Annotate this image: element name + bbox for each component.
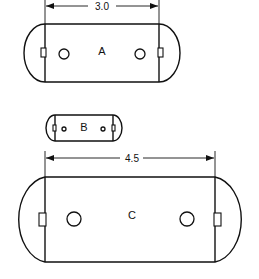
part-c-hole-right bbox=[180, 212, 194, 226]
part-b-tab-left bbox=[53, 125, 56, 131]
part-a-tab-left bbox=[41, 48, 46, 57]
part-a-hole-left bbox=[59, 49, 69, 59]
dimension-c: 4.5 bbox=[45, 151, 215, 177]
part-c-hole-left bbox=[67, 212, 81, 226]
part-a: 3.0 A bbox=[24, 0, 180, 82]
part-a-tab-right bbox=[158, 48, 163, 57]
part-c: 4.5 C bbox=[19, 151, 242, 262]
part-a-label: A bbox=[98, 45, 106, 57]
dimension-label-c: 4.5 bbox=[125, 153, 139, 164]
part-c-tab-left bbox=[39, 213, 46, 226]
part-c-label: C bbox=[128, 209, 136, 221]
part-b-tab-right bbox=[112, 125, 115, 131]
part-b-hole-left bbox=[62, 127, 66, 131]
dimension-label-a: 3.0 bbox=[95, 1, 109, 12]
dimension-a: 3.0 bbox=[45, 0, 159, 24]
part-b: B bbox=[46, 115, 122, 141]
technical-drawing: 3.0 A B 4.5 bbox=[0, 0, 259, 279]
part-b-label: B bbox=[80, 121, 87, 133]
part-c-tab-right bbox=[214, 213, 221, 226]
part-b-hole-right bbox=[101, 127, 105, 131]
part-a-hole-right bbox=[135, 49, 145, 59]
